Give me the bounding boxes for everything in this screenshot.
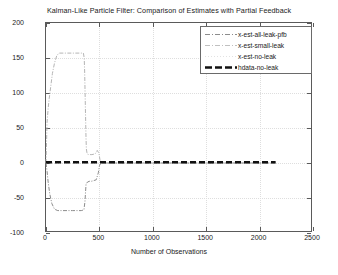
- x-tick-label: 1000: [132, 234, 172, 241]
- legend-item: x-est-all-leak-pfb: [201, 29, 311, 40]
- legend-swatch-x-est-all-leak-pfb: [204, 29, 238, 40]
- x-tick-label: 1500: [185, 234, 225, 241]
- legend-label: x-est-no-leak: [238, 53, 276, 60]
- legend-label: x-est-small-leak: [238, 42, 284, 49]
- legend-swatch-hdata-no-leak: [204, 62, 238, 73]
- legend-item: x-est-small-leak: [201, 40, 311, 51]
- y-tick-label: 150: [0, 54, 24, 61]
- x-tick-label: 0: [25, 234, 65, 241]
- legend-item: x-est-no-leak: [201, 51, 311, 62]
- y-tick-label: 0: [0, 159, 24, 166]
- y-tick-label: 100: [0, 89, 24, 96]
- legend-swatch-x-est-no-leak: [204, 51, 238, 62]
- tick-mark-x: [313, 23, 314, 27]
- legend-label: x-est-all-leak-pfb: [238, 31, 287, 38]
- x-tick-label: 2000: [239, 234, 279, 241]
- y-tick-label: 200: [0, 19, 24, 26]
- x-tick-label: 2500: [292, 234, 332, 241]
- y-tick-label: 50: [0, 124, 24, 131]
- chart-figure: Kalman-Like Particle Filter: Comparison …: [0, 0, 338, 275]
- y-tick-label: -50: [0, 194, 24, 201]
- chart-legend: x-est-all-leak-pfb x-est-small-leak x-es…: [200, 26, 312, 74]
- legend-swatch-x-est-small-leak: [204, 40, 238, 51]
- legend-label: hdata-no-leak: [238, 64, 278, 71]
- tick-mark-y: [307, 233, 311, 234]
- series-line-x-est-all-leak-pfb: [46, 163, 276, 211]
- chart-title: Kalman-Like Particle Filter: Comparison …: [0, 6, 338, 15]
- x-tick-label: 500: [78, 234, 118, 241]
- x-axis-label: Number of Observations: [0, 248, 338, 255]
- tick-mark-y: [46, 233, 50, 234]
- tick-mark-x: [313, 227, 314, 231]
- legend-item: hdata-no-leak: [201, 62, 311, 73]
- y-tick-label: -100: [0, 229, 24, 236]
